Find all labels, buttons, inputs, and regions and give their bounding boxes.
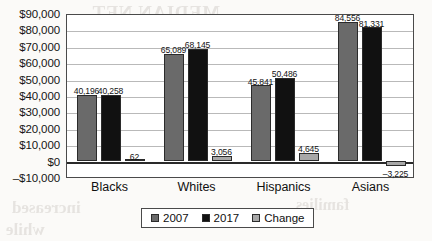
y-tick-label: $30,000 [19, 106, 60, 118]
bar-2007-asians [338, 22, 358, 161]
y-tick-label: $0 [47, 156, 60, 168]
y-tick-label: $80,000 [19, 24, 60, 36]
legend-label: 2007 [163, 212, 189, 224]
bar-2007-blacks [77, 95, 97, 161]
y-tick-label: $10,000 [19, 139, 60, 151]
legend-item-2017: 2017 [202, 212, 240, 224]
y-tick-label: $90,000 [19, 8, 60, 20]
bar-value-label: 68,145 [179, 40, 217, 50]
x-tick-label-blacks: Blacks [91, 180, 128, 194]
bar-value-label: 81,331 [353, 19, 391, 29]
bar-2017-asians [362, 27, 382, 160]
y-tick-label: $40,000 [19, 90, 60, 102]
x-tick-label-whites: Whites [177, 180, 215, 194]
bar-value-label: 3,056 [203, 147, 241, 157]
legend-swatch-icon [252, 214, 260, 222]
legend-item-change: Change [252, 212, 304, 224]
bar-2007-whites [164, 54, 184, 161]
x-axis-category-labels: BlacksWhitesHispanicsAsians [66, 180, 414, 200]
bar-value-label: 4,645 [290, 144, 328, 154]
bar-group: 65,08968,1453,056 [154, 15, 241, 177]
bar-group: 84,55681,331–3,225 [328, 15, 415, 177]
bar-value-label: 62 [116, 152, 154, 162]
y-axis-tick-labels: $90,000$80,000$70,000$60,000$50,000$40,0… [0, 14, 64, 178]
legend-label: Change [264, 212, 304, 224]
bar-2007-hispanics [251, 85, 271, 160]
legend-label: 2017 [214, 212, 240, 224]
y-tick-label: –$10,000 [13, 172, 60, 184]
y-tick-label: $50,000 [19, 74, 60, 86]
bar-group: 40,19640,25862 [67, 15, 154, 177]
bar-2017-whites [188, 49, 208, 161]
bar-group: 45,84150,4864,645 [241, 15, 328, 177]
y-tick-label: $20,000 [19, 123, 60, 135]
legend-item-2007: 2007 [151, 212, 189, 224]
bar-change-asians [386, 161, 406, 166]
y-tick-label: $70,000 [19, 41, 60, 53]
legend-swatch-icon [202, 214, 210, 222]
chart-legend: 20072017Change [141, 208, 314, 228]
bar-2017-blacks [101, 95, 121, 161]
bar-value-label: 40,258 [92, 86, 130, 96]
legend-swatch-icon [151, 214, 159, 222]
bar-value-label: 50,486 [266, 69, 304, 79]
bar-value-label: –3,225 [377, 169, 415, 179]
plot-area: 40,19640,2586265,08968,1453,05645,84150,… [66, 14, 414, 178]
x-tick-label-hispanics: Hispanics [256, 180, 310, 194]
bar-chart: $90,000$80,000$70,000$60,000$50,000$40,0… [0, 0, 432, 241]
x-tick-label-asians: Asians [352, 180, 390, 194]
y-tick-label: $60,000 [19, 57, 60, 69]
